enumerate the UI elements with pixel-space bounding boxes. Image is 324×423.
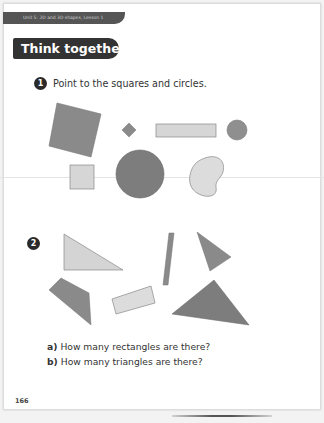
sub-question-b-label: b) <box>47 356 58 367</box>
thin-rectangle-shape <box>163 233 174 285</box>
long-rectangle-shape <box>156 124 216 137</box>
small-circle-shape <box>227 120 247 140</box>
tilted-square-shape <box>49 103 101 157</box>
sub-question-a-text: How many rectangles are there? <box>60 341 210 352</box>
sub-question-b: b)How many triangles are there? <box>47 356 203 367</box>
diamond-square-shape <box>122 123 136 137</box>
page-number: 166 <box>15 397 29 405</box>
right-triangle-shape <box>64 234 123 270</box>
small-square-shape <box>70 165 94 189</box>
large-triangle-shape <box>172 280 249 325</box>
blob-shape <box>190 157 224 197</box>
sub-question-b-text: How many triangles are there? <box>61 356 203 367</box>
question-number-2: 2 <box>27 237 40 250</box>
tilted-rectangle-shape <box>112 286 155 314</box>
small-triangle-shape <box>197 232 231 271</box>
book-binding-shadow <box>172 415 272 417</box>
sub-question-a: a)How many rectangles are there? <box>47 341 210 352</box>
sub-question-a-label: a) <box>47 341 57 352</box>
irregular-quadrilateral-shape <box>49 278 91 325</box>
large-circle-shape <box>116 150 164 198</box>
